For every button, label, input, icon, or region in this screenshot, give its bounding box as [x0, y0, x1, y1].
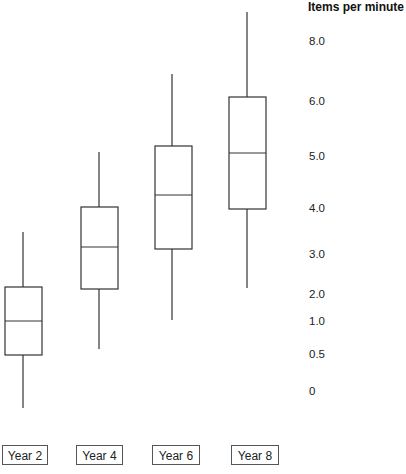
y-tick-0-5: 0.5	[309, 348, 325, 360]
y-tick-2-0: 2.0	[309, 288, 325, 300]
plot-area	[0, 0, 406, 474]
box-plot-chart: Items per minute 8.0 6.0 5.0 4.0 3.0 2.0…	[0, 0, 406, 474]
category-label-year-2: Year 2	[2, 445, 48, 465]
y-tick-6-0: 6.0	[309, 95, 325, 107]
box-year-4	[81, 152, 118, 349]
category-label-year-8: Year 8	[231, 445, 279, 465]
box-year-8	[229, 12, 266, 288]
y-tick-3-0: 3.0	[309, 248, 325, 260]
y-tick-5-0: 5.0	[309, 150, 325, 162]
y-tick-4-0: 4.0	[309, 202, 325, 214]
y-tick-1-0: 1.0	[309, 315, 325, 327]
y-tick-0: 0	[309, 385, 315, 397]
y-axis-title: Items per minute	[308, 0, 404, 14]
box-year-2	[5, 232, 42, 408]
y-tick-8-0: 8.0	[309, 35, 325, 47]
box-year-6	[155, 74, 192, 320]
category-label-year-6: Year 6	[152, 445, 200, 465]
category-label-year-4: Year 4	[76, 445, 123, 465]
